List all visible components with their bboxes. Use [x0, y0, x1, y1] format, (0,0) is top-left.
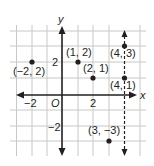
y-tick-label-2: 2: [52, 56, 58, 68]
point-1-2: [75, 59, 80, 64]
y-axis-label: y: [57, 13, 65, 25]
point-label-neg2-2: (−2, 2): [13, 65, 45, 77]
point-label-3-neg3: (3, −3): [88, 124, 120, 136]
coordinate-plane: x y O −2 2 2 −2 (−2, 2) (1, 2) (2, 1) (4…: [0, 0, 154, 166]
x-tick-label-neg2: −2: [24, 97, 37, 109]
origin-label: O: [51, 97, 60, 109]
point-neg2-2: [29, 59, 34, 64]
point-label-4-1: (4, 1): [110, 79, 136, 91]
point-3-neg3: [106, 138, 111, 143]
y-tick-label-neg2: −2: [48, 121, 61, 133]
point-2-1: [90, 75, 95, 80]
x-tick-label-2: 2: [90, 97, 96, 109]
point-label-2-1: (2, 1): [83, 62, 109, 74]
x-axis-label: x: [139, 89, 146, 101]
point-label-1-2: (1, 2): [66, 46, 92, 58]
point-label-4-3: (4, 3): [110, 47, 136, 59]
